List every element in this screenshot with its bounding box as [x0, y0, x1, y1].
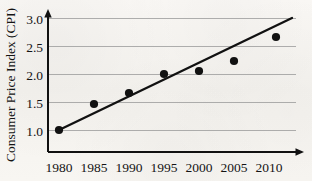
- x-tick-label: 1980: [46, 160, 73, 175]
- y-axis-title: Consumer Price Index (CPI): [3, 8, 18, 162]
- x-tick-label: 1995: [151, 160, 178, 175]
- x-tick-label: 2000: [186, 160, 213, 175]
- x-tick-label: 2005: [221, 160, 248, 175]
- x-axis-arrowhead: [296, 148, 305, 155]
- x-axis: [48, 148, 304, 155]
- data-points: [55, 33, 280, 134]
- y-tick-label: 2.5: [26, 40, 43, 55]
- data-point: [195, 67, 203, 75]
- data-point: [272, 33, 280, 41]
- trend-line: [59, 18, 292, 130]
- y-tick-labels: 3.0 2.5 2.0 1.5 1.0: [26, 12, 43, 139]
- x-tick-label: 1990: [116, 160, 143, 175]
- chart-canvas: 3.0 2.5 2.0 1.5 1.0 1980 1985 1990 1995 …: [0, 0, 312, 181]
- x-tick-labels: 1980 1985 1990 1995 2000 2005 2010: [46, 160, 283, 175]
- data-point: [125, 89, 133, 97]
- cpi-scatter-figure: 3.0 2.5 2.0 1.5 1.0 1980 1985 1990 1995 …: [0, 0, 312, 181]
- y-tick-label: 1.0: [26, 124, 43, 139]
- y-axis-arrowhead: [44, 9, 51, 18]
- y-tick-label: 2.0: [26, 68, 43, 83]
- data-point: [160, 70, 168, 78]
- x-tick-label: 2010: [256, 160, 283, 175]
- y-tick-label: 1.5: [26, 96, 43, 111]
- data-point: [55, 126, 63, 134]
- data-point: [90, 100, 98, 108]
- x-tick-label: 1985: [81, 160, 108, 175]
- data-point: [230, 57, 238, 65]
- y-tick-label: 3.0: [26, 12, 43, 27]
